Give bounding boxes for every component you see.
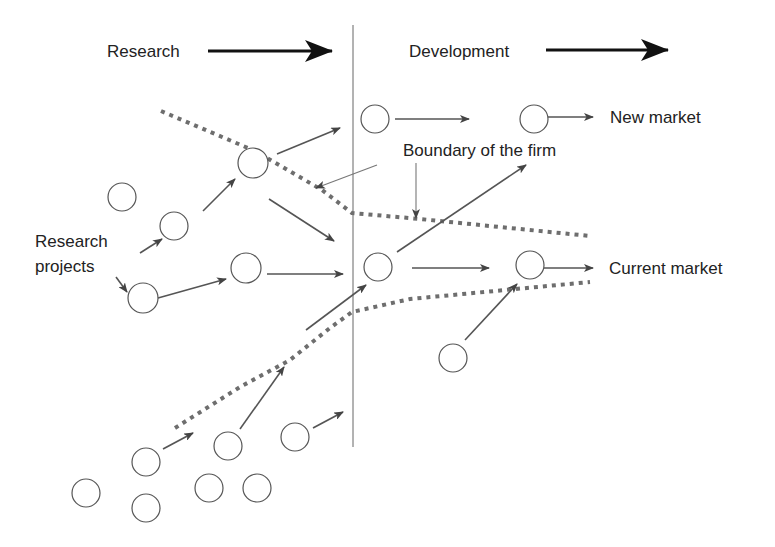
innovation-funnel-diagram: Research Development	[0, 0, 775, 547]
project-node	[439, 344, 467, 372]
research-projects-pointer	[116, 277, 127, 292]
boundary-pointer-upper-left	[316, 165, 377, 188]
flow-arrow	[158, 279, 226, 298]
project-node	[238, 148, 268, 178]
firm-boundary-lower	[175, 282, 590, 428]
project-node	[132, 494, 160, 522]
project-node	[520, 105, 548, 133]
project-node	[132, 448, 160, 476]
flow-arrow	[269, 199, 334, 241]
project-node	[108, 183, 136, 211]
flow-arrow	[163, 433, 193, 449]
flow-arrow	[203, 179, 235, 211]
project-node	[195, 474, 223, 502]
project-node	[364, 253, 392, 281]
boundary-of-firm-label: Boundary of the firm	[403, 141, 556, 160]
current-market-label: Current market	[609, 259, 723, 278]
flow-arrows	[116, 117, 593, 449]
flow-arrow	[277, 128, 340, 154]
project-node	[160, 212, 188, 240]
phase-label-development: Development	[409, 42, 509, 61]
project-node	[516, 251, 544, 279]
project-node	[214, 432, 242, 460]
project-nodes	[72, 105, 548, 522]
flow-arrow	[313, 412, 343, 428]
research-projects-label-line1: Research	[35, 232, 108, 251]
project-node	[72, 479, 100, 507]
new-market-label: New market	[610, 108, 701, 127]
project-node	[281, 423, 309, 451]
project-node	[231, 253, 261, 283]
flow-arrow	[140, 239, 162, 253]
phase-label-research: Research	[107, 42, 180, 61]
project-node	[361, 105, 389, 133]
project-node	[128, 283, 158, 313]
research-projects-label-line2: projects	[35, 257, 95, 276]
project-node	[243, 474, 271, 502]
